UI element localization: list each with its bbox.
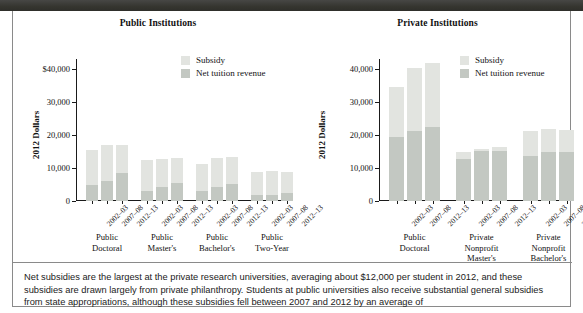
bar-segment-subsidy <box>389 87 404 137</box>
bar-stack <box>141 160 153 201</box>
legend-label-subsidy: Subsidy <box>475 55 504 65</box>
bar-stack <box>425 63 440 201</box>
bar-segment-subsidy <box>226 157 238 184</box>
x-axis-group-label: PublicDoctoral <box>92 232 122 253</box>
x-axis-group-label-line: Public <box>199 232 235 243</box>
charts-area: Public Institutions 2012 Dollars 010,000… <box>13 11 572 261</box>
bar-segment-net-tuition <box>456 159 471 201</box>
bar-segment-subsidy <box>425 63 440 126</box>
bar-stack <box>211 158 223 201</box>
x-axis-group-label: PublicBachelor's <box>199 232 235 253</box>
bar-segment-subsidy <box>266 171 278 195</box>
bar-segment-subsidy <box>171 158 183 182</box>
bar-stack <box>266 171 278 201</box>
bar-segment-net-tuition <box>474 151 489 201</box>
bar-segment-net-tuition <box>541 152 556 201</box>
bar-segment-subsidy <box>523 131 538 156</box>
figure-caption: Net subsidies are the largest at the pri… <box>13 262 572 307</box>
bar-segment-subsidy <box>196 164 208 191</box>
legend-label-net-tuition: Net tuition revenue <box>196 68 265 78</box>
chart-title-private: Private Institutions <box>303 18 572 28</box>
legend-item-subsidy: Subsidy <box>181 55 265 65</box>
bar-stack <box>474 149 489 201</box>
chart-title-public: Public Institutions <box>13 18 303 28</box>
x-axis-group-label-line: Public <box>92 232 122 243</box>
bar-segment-net-tuition <box>171 183 183 201</box>
bar-segment-subsidy <box>559 130 574 153</box>
bar-segment-net-tuition <box>116 173 128 201</box>
bar-segment-subsidy <box>541 129 556 152</box>
y-axis-tick <box>375 102 379 103</box>
legend-swatch-net-tuition-icon <box>181 69 190 78</box>
bar-stack <box>559 130 574 201</box>
bar-segment-net-tuition <box>281 193 293 201</box>
bar-stack <box>389 87 404 201</box>
bar-segment-subsidy <box>141 160 153 191</box>
bar-stack <box>86 150 98 201</box>
bar-stack <box>281 172 293 201</box>
legend-swatch-net-tuition-icon <box>460 69 469 78</box>
y-axis-tick <box>72 135 76 136</box>
legend-item-subsidy: Subsidy <box>460 55 544 65</box>
y-axis-tick-label: 0 <box>369 196 373 206</box>
y-axis-tick-label: 10,000 <box>47 163 70 173</box>
x-axis-tick-labels-private: 2002–032007–082012–132002–032007–082012–… <box>379 201 560 235</box>
bar-segment-subsidy <box>211 158 223 187</box>
bar-segment-subsidy <box>281 172 293 194</box>
chart-panel-private: Private Institutions 2012 Dollars 010,00… <box>303 11 572 261</box>
bar-stack <box>101 145 113 201</box>
bar-stack <box>226 157 238 201</box>
x-axis-group-label: PublicDoctoral <box>399 232 429 253</box>
bar-segment-subsidy <box>101 145 113 181</box>
legend-swatch-subsidy-icon <box>181 56 190 65</box>
legend-item-net-tuition: Net tuition revenue <box>181 68 265 78</box>
y-axis-tick <box>375 135 379 136</box>
bar-stack <box>456 152 471 201</box>
window-header-bar <box>0 0 583 11</box>
bar-segment-net-tuition <box>492 151 507 201</box>
bar-segment-net-tuition <box>226 184 238 201</box>
bar-segment-net-tuition <box>523 156 538 201</box>
x-axis-group-label-line: Public <box>148 232 177 243</box>
bar-segment-subsidy <box>456 152 471 159</box>
bar-segment-net-tuition <box>196 191 208 201</box>
y-axis-tick-label: 10,000 <box>350 163 373 173</box>
bar-segment-net-tuition <box>141 191 153 201</box>
x-axis-group-label-line: Two-Year <box>255 243 289 254</box>
legend-swatch-subsidy-icon <box>460 56 469 65</box>
y-axis-tick-label: 0 <box>66 196 70 206</box>
bar-segment-subsidy <box>251 172 263 195</box>
bar-stack <box>492 147 507 201</box>
bar-segment-net-tuition <box>425 127 440 201</box>
y-axis-tick-label: 30,000 <box>350 97 373 107</box>
x-axis-group-label-line: Bachelor's <box>199 243 235 254</box>
x-axis-group-label-line: Private <box>465 232 499 243</box>
bar-stack <box>251 172 263 201</box>
bar-stack <box>407 68 422 201</box>
window-header-bar-fill <box>0 0 583 11</box>
bar-stack <box>541 129 556 201</box>
bar-segment-net-tuition <box>101 181 113 201</box>
chart-panel-public: Public Institutions 2012 Dollars 010,000… <box>13 11 303 261</box>
y-axis-tick <box>375 69 379 70</box>
legend-label-net-tuition: Net tuition revenue <box>475 68 544 78</box>
legend-public: Subsidy Net tuition revenue <box>181 55 265 81</box>
x-axis-tick-labels-public: 2002–032007–082012–132002–032007–082012–… <box>76 201 291 235</box>
bar-stack <box>523 131 538 201</box>
bar-segment-subsidy <box>86 150 98 185</box>
y-axis-tick-label: 30,000 <box>47 97 70 107</box>
x-axis-group-label-line: Private <box>531 232 567 243</box>
x-axis-group-label-line: Nonprofit <box>465 243 499 254</box>
x-axis-group-label-line: Public <box>255 232 289 243</box>
y-axis-tick-label: $40,000 <box>42 64 70 74</box>
y-axis-line-private <box>379 59 380 201</box>
y-axis-tick <box>72 69 76 70</box>
y-axis-tick-label: 40,000 <box>350 64 373 74</box>
y-axis-tick-label: 20,000 <box>350 130 373 140</box>
x-axis-tick <box>567 201 568 204</box>
bar-segment-net-tuition <box>86 185 98 202</box>
y-axis-tick-label: 20,000 <box>47 130 70 140</box>
bar-stack <box>116 145 128 201</box>
bar-stack <box>171 158 183 201</box>
bar-segment-net-tuition <box>407 131 422 201</box>
